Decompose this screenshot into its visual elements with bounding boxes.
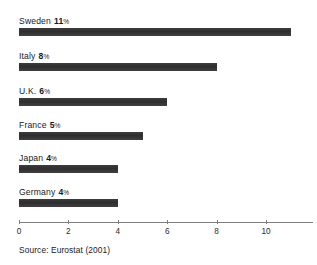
bar-label: Japan4% — [19, 153, 57, 164]
bar-label: Sweden11% — [19, 16, 69, 27]
bar — [19, 199, 118, 207]
category-label: Germany — [19, 187, 55, 197]
axis-tick-label: 6 — [165, 227, 170, 236]
bar-label: U.K.6% — [19, 86, 50, 97]
category-label: Japan — [19, 153, 43, 163]
unit-label: % — [63, 18, 69, 25]
value-label: 6% — [39, 86, 50, 96]
unit-label: % — [43, 53, 49, 60]
category-label: U.K. — [19, 86, 36, 96]
unit-label: % — [63, 189, 69, 196]
axis-tick-label: 2 — [66, 227, 71, 236]
value-label: 8% — [39, 51, 50, 61]
plot-area: Sweden11%Italy8%U.K.6%France5%Japan4%Ger… — [0, 0, 317, 222]
axis-tick — [118, 220, 119, 224]
bar-label: Germany4% — [19, 187, 69, 198]
unit-label: % — [51, 155, 57, 162]
category-label: Sweden — [19, 16, 51, 26]
bar — [19, 132, 143, 140]
value-label: 11% — [54, 16, 69, 26]
axis-tick — [68, 220, 69, 224]
axis-tick-label: 10 — [261, 227, 270, 236]
bar — [19, 165, 118, 173]
x-axis-line — [19, 222, 313, 223]
value-label: 4% — [46, 153, 57, 163]
axis-tick — [19, 220, 20, 224]
bar-chart: Sweden11%Italy8%U.K.6%France5%Japan4%Ger… — [0, 0, 317, 265]
bar — [19, 63, 217, 71]
axis-tick-label: 8 — [214, 227, 219, 236]
category-label: France — [19, 120, 47, 130]
bar-label: France5% — [19, 120, 61, 131]
value-label: 4% — [58, 187, 69, 197]
value-label: 5% — [50, 120, 61, 130]
bar — [19, 28, 291, 36]
source-note: Source: Eurostat (2001) — [19, 245, 110, 255]
axis-tick-label: 0 — [17, 227, 22, 236]
unit-label: % — [55, 122, 61, 129]
category-label: Italy — [19, 51, 36, 61]
bar — [19, 98, 167, 106]
bar-label: Italy8% — [19, 51, 49, 62]
axis-tick — [217, 220, 218, 224]
axis-tick — [266, 220, 267, 224]
axis-tick — [167, 220, 168, 224]
unit-label: % — [44, 88, 50, 95]
axis-tick-label: 4 — [115, 227, 120, 236]
x-axis: 0246810 — [0, 220, 317, 244]
